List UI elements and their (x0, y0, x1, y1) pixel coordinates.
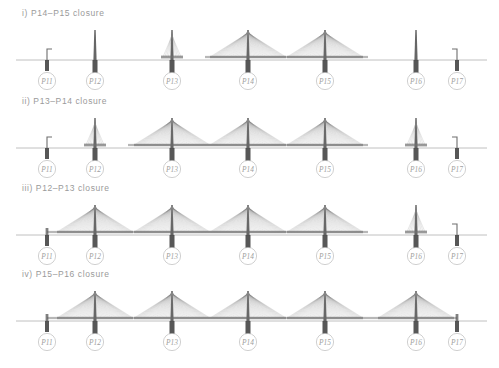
svg-text:P11: P11 (40, 77, 52, 86)
svg-text:P14: P14 (241, 165, 254, 174)
construction-stage: iv) P15–P16 closureP11P12P13P14P15P16P17 (0, 269, 499, 357)
pier-assembly-p15 (287, 30, 363, 73)
pier-label-p12: P12 (86, 247, 103, 264)
pier-label-p16: P16 (407, 72, 424, 89)
svg-text:P17: P17 (450, 77, 463, 86)
pier-assembly-p13 (134, 205, 210, 248)
pier-assembly-p15 (287, 291, 363, 334)
pier-label-p12: P12 (86, 160, 103, 177)
pier-label-p15: P15 (316, 247, 333, 264)
svg-text:P11: P11 (40, 338, 52, 347)
pier-assembly-p12 (57, 205, 133, 248)
pier-label-p14: P14 (239, 247, 256, 264)
pier-label-p15: P15 (316, 333, 333, 350)
pier-assembly-p14 (210, 291, 286, 334)
svg-text:P11: P11 (40, 252, 52, 261)
construction-stage: ii) P13–P14 closureP11P12P13P14P15P16P17 (0, 96, 499, 184)
pier-assembly-p16 (405, 205, 427, 248)
svg-text:P15: P15 (318, 252, 331, 261)
svg-text:P13: P13 (165, 252, 178, 261)
svg-text:P13: P13 (165, 338, 178, 347)
pier-label-p11: P11 (38, 160, 55, 177)
pier-assembly-p13 (161, 30, 183, 73)
stage-elevation-drawing: P11P12P13P14P15P16P17 (0, 183, 499, 271)
svg-text:P17: P17 (450, 252, 463, 261)
construction-stage: i) P14–P15 closureP11P12P13P14P15P16P17 (0, 8, 499, 96)
pier-label-p15: P15 (316, 72, 333, 89)
pier-assembly-p14 (210, 205, 286, 248)
svg-text:P15: P15 (318, 77, 331, 86)
stage-elevation-drawing: P11P12P13P14P15P16P17 (0, 96, 499, 184)
pier-label-p12: P12 (86, 72, 103, 89)
pier-assembly-p16 (378, 291, 454, 334)
svg-text:P11: P11 (40, 165, 52, 174)
pier-assembly-p12 (84, 118, 106, 161)
pier-label-p11: P11 (38, 72, 55, 89)
stage-elevation-drawing: P11P12P13P14P15P16P17 (0, 8, 499, 96)
pier-assembly-p16 (414, 30, 419, 73)
pier-assembly-p16 (405, 118, 427, 161)
svg-text:P14: P14 (241, 338, 254, 347)
svg-text:P16: P16 (409, 77, 422, 86)
pier-label-p17: P17 (448, 160, 465, 177)
pier-label-p12: P12 (86, 333, 103, 350)
pier-label-p11: P11 (38, 247, 55, 264)
svg-text:P12: P12 (88, 252, 101, 261)
pier-label-p14: P14 (239, 333, 256, 350)
pier-label-p16: P16 (407, 247, 424, 264)
pier-assembly-p13 (134, 118, 210, 161)
svg-text:P12: P12 (88, 338, 101, 347)
pier-assembly-p14 (210, 30, 286, 73)
pier-assembly-p14 (210, 118, 286, 161)
svg-text:P16: P16 (409, 252, 422, 261)
svg-text:P13: P13 (165, 165, 178, 174)
pier-label-p15: P15 (316, 160, 333, 177)
svg-text:P15: P15 (318, 165, 331, 174)
svg-text:P17: P17 (450, 165, 463, 174)
svg-text:P14: P14 (241, 252, 254, 261)
svg-text:P15: P15 (318, 338, 331, 347)
pier-assembly-p12 (57, 291, 133, 334)
pier-assembly-p15 (287, 118, 363, 161)
stage-elevation-drawing: P11P12P13P14P15P16P17 (0, 269, 499, 357)
pier-assembly-p17 (455, 314, 459, 332)
svg-text:P13: P13 (165, 77, 178, 86)
pier-assembly-p11 (45, 314, 49, 332)
pier-label-p17: P17 (448, 72, 465, 89)
pier-assembly-p12 (93, 30, 98, 73)
pier-label-p14: P14 (239, 72, 256, 89)
pier-label-p11: P11 (38, 333, 55, 350)
pier-assembly-p15 (287, 205, 363, 248)
pier-label-p13: P13 (163, 160, 180, 177)
pier-label-p16: P16 (407, 333, 424, 350)
pier-label-p14: P14 (239, 160, 256, 177)
pier-label-p13: P13 (163, 247, 180, 264)
pier-label-p13: P13 (163, 72, 180, 89)
pier-assembly-p11 (45, 228, 49, 246)
svg-text:P12: P12 (88, 165, 101, 174)
construction-stage: iii) P12–P13 closureP11P12P13P14P15P16P1… (0, 183, 499, 271)
pier-label-p13: P13 (163, 333, 180, 350)
pier-label-p16: P16 (407, 160, 424, 177)
svg-text:P16: P16 (409, 165, 422, 174)
svg-text:P12: P12 (88, 77, 101, 86)
pier-assembly-p13 (134, 291, 210, 334)
svg-text:P16: P16 (409, 338, 422, 347)
pier-label-p17: P17 (448, 247, 465, 264)
pier-label-p17: P17 (448, 333, 465, 350)
svg-text:P17: P17 (450, 338, 463, 347)
svg-text:P14: P14 (241, 77, 254, 86)
